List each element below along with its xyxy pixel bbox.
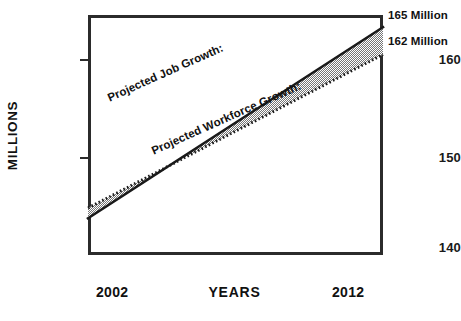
y-tick-mark-160 bbox=[80, 59, 88, 61]
y-tick-label-160: 160 bbox=[421, 52, 461, 67]
x-axis-title: YEARS bbox=[0, 284, 461, 300]
series-line-job-growth bbox=[88, 27, 383, 218]
x-axis-title-text: YEARS bbox=[208, 284, 260, 300]
chart-plot bbox=[88, 15, 383, 255]
endpoint-label-job-growth: 165 Million bbox=[388, 9, 448, 21]
series-line-workforce-growth bbox=[88, 55, 383, 208]
y-tick-mark-150 bbox=[80, 157, 88, 159]
y-tick-label-150: 150 bbox=[421, 150, 461, 165]
endpoint-label-workforce-growth: 162 Million bbox=[388, 35, 448, 47]
y-axis-title: MILLIONS bbox=[5, 101, 20, 170]
chart-container: MILLIONS 160 150 140 Projected Job Growt… bbox=[0, 0, 461, 321]
y-tick-label-140: 140 bbox=[421, 240, 461, 255]
